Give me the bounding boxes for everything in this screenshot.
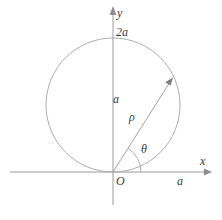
radius-vector-label: ρ (129, 111, 135, 123)
y-axis-label: y (117, 7, 122, 19)
angle-label: θ (141, 143, 147, 155)
origin-label: O (116, 175, 125, 187)
radius-vector-line (113, 84, 169, 172)
radius-vector-arrowhead (165, 78, 173, 86)
vertical-diameter-label: a (113, 93, 119, 105)
x-axis-arrowhead (204, 169, 212, 176)
circle-top-label: 2a (116, 26, 128, 38)
x-axis-label: x (200, 155, 205, 167)
y-axis-arrowhead (110, 6, 117, 15)
polar-circle-figure: y x 2a a a ρ θ O (0, 0, 222, 220)
figure-canvas (0, 0, 222, 220)
x-axis-tick-label: a (177, 175, 183, 187)
